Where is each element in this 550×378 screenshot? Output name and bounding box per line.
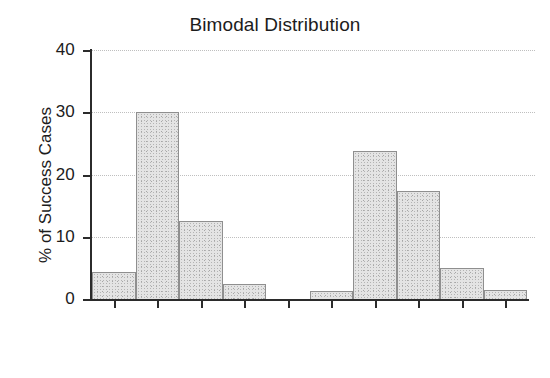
chart-title: Bimodal Distribution bbox=[0, 14, 550, 36]
y-tick-20 bbox=[83, 175, 92, 177]
y-axis-title: % of Success Cases bbox=[36, 55, 56, 315]
y-tick-label-40: 40 bbox=[56, 40, 75, 60]
x-tick-95500 bbox=[505, 299, 507, 308]
bar-slot bbox=[136, 50, 180, 299]
bar-77500[interactable] bbox=[397, 191, 441, 299]
x-tick-77500 bbox=[418, 299, 420, 308]
bar-23500[interactable] bbox=[136, 112, 180, 299]
bar-slot bbox=[353, 50, 397, 299]
bar-slot bbox=[484, 50, 528, 299]
bar-slot bbox=[179, 50, 223, 299]
x-tick-32500 bbox=[201, 299, 203, 308]
x-tick-41500 bbox=[244, 299, 246, 308]
bar-68500[interactable] bbox=[353, 151, 397, 299]
x-tick-23500 bbox=[157, 299, 159, 308]
y-tick-0 bbox=[83, 299, 92, 301]
bar-95500[interactable] bbox=[484, 290, 528, 299]
bar-32500[interactable] bbox=[179, 221, 223, 299]
x-tick-50500 bbox=[288, 299, 290, 308]
x-tick-59500 bbox=[331, 299, 333, 308]
y-tick-10 bbox=[83, 237, 92, 239]
bar-41500[interactable] bbox=[223, 284, 267, 299]
bar-slot bbox=[440, 50, 484, 299]
bar-slot bbox=[397, 50, 441, 299]
y-tick-label-20: 20 bbox=[56, 165, 75, 185]
bar-series bbox=[92, 50, 527, 299]
bar-86500[interactable] bbox=[440, 268, 484, 299]
y-tick-label-10: 10 bbox=[56, 227, 75, 247]
bar-slot bbox=[223, 50, 267, 299]
x-tick-14500 bbox=[114, 299, 116, 308]
bar-slot bbox=[266, 50, 310, 299]
y-tick-label-30: 30 bbox=[56, 102, 75, 122]
x-tick-86500 bbox=[462, 299, 464, 308]
bar-14500[interactable] bbox=[92, 272, 136, 299]
x-tick-68500 bbox=[375, 299, 377, 308]
y-tick-label-0: 0 bbox=[65, 289, 74, 309]
bar-chart-figure: Bimodal Distribution % of Success Cases … bbox=[0, 0, 550, 378]
y-tick-30 bbox=[83, 112, 92, 114]
bar-slot bbox=[92, 50, 136, 299]
y-tick-40 bbox=[83, 50, 92, 52]
plot-area: 40 30 20 10 0 14500235003250041500505005… bbox=[92, 50, 527, 299]
bar-59500[interactable] bbox=[310, 291, 354, 299]
bar-slot bbox=[310, 50, 354, 299]
